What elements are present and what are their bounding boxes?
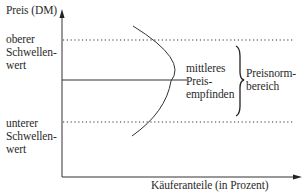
middle-price-label-line2: Preis- bbox=[186, 75, 212, 88]
upper-threshold-label-line2: Schwellen- bbox=[6, 46, 57, 59]
range-label-line2: bereich bbox=[246, 80, 279, 93]
y-axis-label: Preis (DM) bbox=[6, 4, 57, 17]
middle-price-label-line3: empfinden bbox=[186, 88, 234, 101]
upper-threshold-label-line1: oberer bbox=[6, 33, 35, 46]
x-axis-arrow-icon bbox=[293, 175, 302, 180]
y-axis-arrow-icon bbox=[60, 9, 65, 18]
lower-threshold-label-line2: Schwellen- bbox=[6, 130, 57, 143]
range-brace-icon bbox=[236, 46, 244, 116]
upper-threshold-label-line3: wert bbox=[6, 59, 26, 72]
lower-threshold-label-line1: unterer bbox=[6, 117, 38, 130]
range-label-line1: Preisnorm- bbox=[246, 67, 296, 80]
acceptance-curve bbox=[132, 26, 175, 136]
x-axis-label: Käuferanteile (in Prozent) bbox=[151, 179, 268, 192]
middle-price-label-line1: mittleres bbox=[186, 62, 225, 75]
diagram-canvas bbox=[0, 0, 306, 193]
lower-threshold-label-line3: wert bbox=[6, 143, 26, 156]
